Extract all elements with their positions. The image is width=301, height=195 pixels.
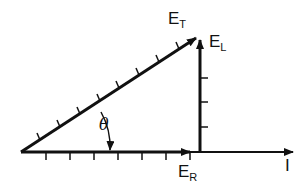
el-label: EL [209,33,226,50]
er-label: ER [178,163,197,180]
i-label: I [285,157,290,174]
phasor-diagram [0,0,301,195]
theta-label: θ [99,117,109,133]
et-label: ET [168,10,186,27]
